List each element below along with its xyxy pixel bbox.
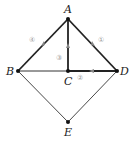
node-label-e: E: [64, 127, 72, 138]
arrow-icon-c-a: [66, 43, 70, 48]
node-label-c: C: [64, 76, 72, 87]
edge-d-e: [68, 71, 117, 122]
node-d: [115, 69, 119, 73]
edge-b-e: [18, 71, 68, 122]
node-label-b: B: [6, 66, 14, 77]
node-c: [66, 69, 70, 73]
edge-label-d-a: ①: [98, 37, 104, 44]
edge-label-d-c: ②: [77, 75, 83, 82]
node-label-d: D: [120, 66, 129, 77]
arrow-icon-b-a: [41, 41, 45, 46]
node-label-a: A: [64, 4, 72, 15]
graph-diagram: [0, 0, 135, 147]
node-e: [66, 120, 70, 124]
edge-label-b-a: ④: [29, 37, 35, 44]
node-b: [16, 69, 20, 73]
node-a: [66, 17, 70, 21]
edge-label-c-a: ③: [56, 55, 62, 62]
arrow-icon-d-c: [89, 69, 94, 73]
